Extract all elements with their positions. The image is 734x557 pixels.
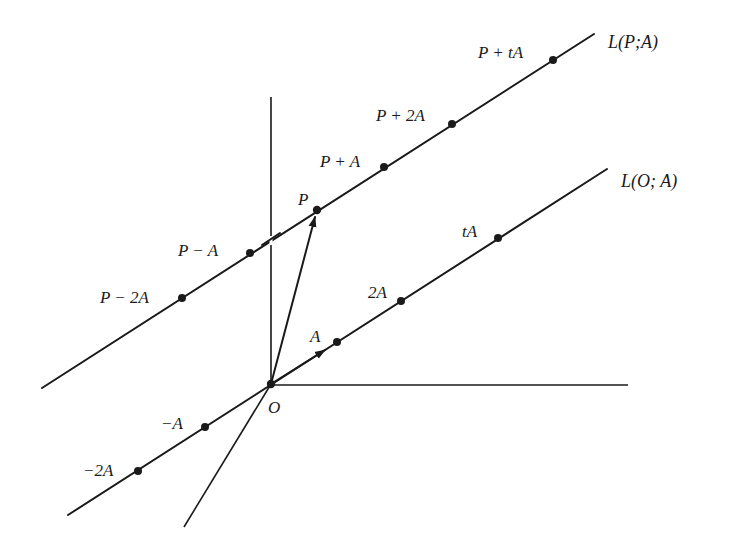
point-p-minus-2a — [178, 294, 186, 302]
label-2a: 2A — [368, 283, 388, 302]
point-minus-a — [201, 423, 209, 431]
point-2a — [397, 297, 405, 305]
point-p-plus-ta — [549, 56, 557, 64]
label-line-l-o-a: L(O; A) — [620, 171, 677, 192]
label-line-l-p-a: L(P;A) — [607, 32, 658, 53]
label-p-minus-2a: P − 2A — [99, 288, 150, 307]
point-a — [333, 338, 341, 346]
point-p — [313, 206, 321, 214]
label-p-minus-a: P − A — [177, 241, 219, 260]
label-p-plus-2a: P + 2A — [375, 106, 426, 125]
point-p-minus-a — [246, 249, 254, 257]
coordinate-axes — [184, 97, 628, 527]
point-p-plus-2a — [448, 120, 456, 128]
point-p-plus-a — [380, 163, 388, 171]
label-p: P — [297, 190, 308, 209]
label-minus-a: −A — [161, 414, 183, 433]
point-ta — [494, 234, 502, 242]
vector-line-diagram: P − 2A P − A P P + A P + 2A P + tA −2A −… — [0, 0, 734, 557]
label-ta: tA — [462, 222, 478, 241]
point-minus-2a — [134, 467, 142, 475]
label-minus-2a: −2A — [83, 461, 114, 480]
label-a: A — [309, 327, 321, 346]
label-origin: O — [268, 398, 280, 417]
depth-axis — [184, 384, 271, 527]
point-origin — [267, 380, 275, 388]
vector-p-arrow — [271, 217, 315, 384]
label-p-plus-ta: P + tA — [477, 43, 524, 62]
label-p-plus-a: P + A — [319, 152, 361, 171]
